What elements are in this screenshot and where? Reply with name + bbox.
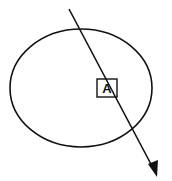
orbit-ellipse	[10, 29, 152, 147]
point-label: A	[102, 81, 112, 96]
diagram-canvas: A	[0, 0, 172, 181]
